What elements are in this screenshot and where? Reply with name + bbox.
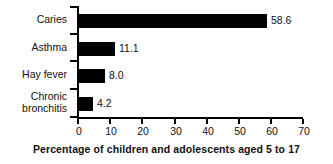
bar-value-label: 8.0 — [109, 68, 124, 83]
x-axis-tick-label: 30 — [164, 125, 188, 137]
x-axis-title: Percentage of children and adolescents a… — [0, 143, 333, 156]
y-axis-tick — [70, 60, 77, 62]
x-axis-tick-label: 10 — [99, 125, 123, 137]
x-axis-tick — [206, 119, 208, 124]
bar — [79, 97, 93, 111]
x-axis-tick-label: 20 — [131, 125, 155, 137]
x-axis-tick — [174, 119, 176, 124]
category-label: Chronic bronchitis — [22, 91, 67, 114]
category-label-line: Caries — [37, 14, 67, 26]
y-axis-tick — [70, 88, 77, 90]
bar-value-label: 11.1 — [119, 41, 139, 56]
x-axis-tick-label: 70 — [292, 125, 316, 137]
category-label-line: Chronic — [22, 91, 67, 103]
bar-value-label: 58.6 — [271, 13, 291, 28]
bar-chart: 58.6 Caries 11.1 Asthma 8.0 Hay fever 4.… — [0, 0, 333, 164]
plot-area: 58.6 Caries 11.1 Asthma 8.0 Hay fever 4.… — [0, 0, 333, 164]
category-label-line: Hay fever — [22, 69, 67, 81]
category-label: Asthma — [31, 42, 67, 54]
y-axis-tick — [70, 33, 77, 35]
category-label: Caries — [37, 14, 67, 26]
x-axis-tick-label: 0 — [67, 125, 91, 137]
x-axis-tick — [77, 119, 79, 124]
category-label-line: bronchitis — [22, 103, 67, 115]
x-axis-tick — [141, 119, 143, 124]
category-label-line: Asthma — [31, 42, 67, 54]
y-axis-tick — [70, 116, 77, 118]
bar-value-label: 4.2 — [97, 96, 112, 111]
x-axis-tick — [302, 119, 304, 124]
category-label: Hay fever — [22, 69, 67, 81]
bar — [79, 42, 115, 56]
x-axis-tick-label: 60 — [260, 125, 284, 137]
bar — [79, 14, 267, 28]
bar — [79, 69, 105, 83]
x-axis-tick-label: 50 — [228, 125, 252, 137]
x-axis-tick-label: 40 — [196, 125, 220, 137]
x-axis-tick — [270, 119, 272, 124]
x-axis-tick — [238, 119, 240, 124]
y-axis-tick — [70, 6, 77, 8]
x-axis-tick — [109, 119, 111, 124]
